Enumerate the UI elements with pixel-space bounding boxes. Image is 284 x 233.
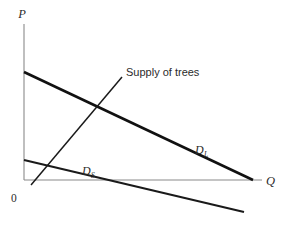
short-run-demand-label: D S bbox=[81, 164, 95, 180]
origin-label: 0 bbox=[11, 192, 17, 204]
long-run-demand-label-subscript: L bbox=[203, 150, 208, 159]
long-run-demand-label-base: D bbox=[194, 143, 204, 157]
short-run-demand-label-subscript: S bbox=[91, 171, 95, 180]
supply-annotation-label: Supply of trees bbox=[126, 66, 200, 78]
supply-curve bbox=[31, 77, 122, 185]
supply-demand-figure: P Q 0 Supply of trees D L D S bbox=[0, 0, 284, 233]
quantity-axis-label: Q bbox=[266, 174, 275, 188]
price-axis-label: P bbox=[17, 7, 26, 21]
long-run-demand-curve bbox=[24, 72, 253, 180]
short-run-demand-curve bbox=[24, 160, 244, 212]
short-run-demand-label-base: D bbox=[81, 164, 91, 178]
long-run-demand-label: D L bbox=[194, 143, 208, 159]
